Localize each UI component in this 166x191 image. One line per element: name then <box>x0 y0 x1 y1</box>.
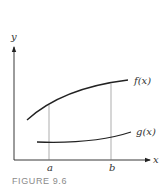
y-axis-label: y <box>10 31 17 42</box>
figure-caption: FIGURE 9.6 <box>12 176 67 186</box>
figure-diagram: y x f(x) g(x) a b <box>0 0 166 191</box>
marker-a-label: a <box>47 162 53 173</box>
marker-b-label: b <box>109 162 115 173</box>
curve-g <box>37 132 131 142</box>
curve-f <box>27 80 128 120</box>
curve-f-label: f(x) <box>133 75 151 86</box>
curve-g-label: g(x) <box>136 126 156 137</box>
x-axis-label: x <box>153 154 159 165</box>
